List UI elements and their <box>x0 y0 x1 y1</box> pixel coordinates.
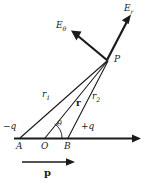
label-point-a: A <box>16 142 23 151</box>
e-theta-shaft <box>78 36 108 61</box>
label-r2: r2 <box>92 92 100 103</box>
label-r2-subscript: 2 <box>96 96 100 103</box>
e-theta-vector <box>71 31 108 61</box>
label-point-o: O <box>41 142 48 151</box>
label-theta: θ <box>57 120 62 128</box>
label-r1-subscript: 1 <box>46 94 50 101</box>
label-point-p: P <box>114 55 120 64</box>
label-e-r-base: E <box>124 3 131 13</box>
dipole-moment-arrow <box>22 158 75 166</box>
e-r-arrowhead <box>122 15 131 25</box>
label-charge-negative: −q <box>3 122 16 131</box>
label-e-r: Er <box>124 4 134 15</box>
dipole-axis <box>14 135 141 143</box>
label-dipole-moment: p <box>44 168 51 178</box>
label-point-b: B <box>64 142 71 151</box>
label-e-theta: Eθ <box>56 21 66 32</box>
dipole-moment-arrowhead <box>66 158 75 166</box>
label-r-vector: r <box>76 99 81 108</box>
label-e-r-subscript: r <box>131 8 134 15</box>
diagram-canvas <box>0 0 146 185</box>
label-charge-positive: +q <box>81 122 94 131</box>
dipole-field-diagram: Eθ Er P r1 r r2 θ −q +q A O B p <box>0 0 146 185</box>
label-e-theta-subscript: θ <box>63 25 67 32</box>
label-r1: r1 <box>42 90 50 101</box>
label-e-theta-base: E <box>56 20 63 30</box>
axis-arrowhead <box>132 135 141 143</box>
